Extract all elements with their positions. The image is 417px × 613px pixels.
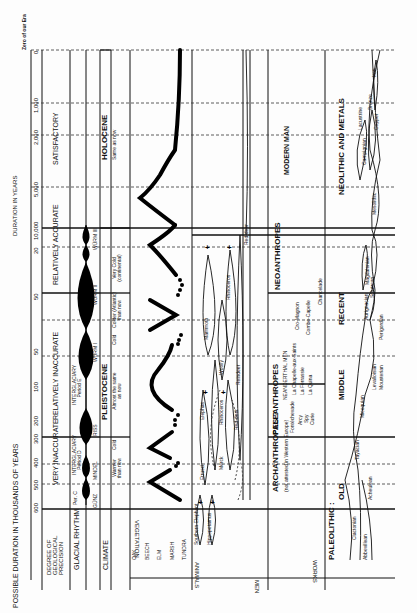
row-precision-label: DEGREE OF GEOLOGICAL PRECISION (46, 515, 64, 575)
climate-cold: Cold (112, 440, 117, 450)
tick-100: 100 (33, 382, 39, 392)
climate-almost-same: Almost the same as now (112, 372, 122, 410)
animal-woolly: Woolly (219, 360, 224, 375)
works-perigordian: Perigordian (379, 314, 384, 340)
animal-red-deer: Red-deer (234, 409, 239, 430)
glacial-riss: RISS (93, 424, 98, 436)
men-fontechevade: Fontéchevade (290, 401, 295, 433)
axis-title-thousands: POSSIBLE DURATION IN THOUSANDS OF YEARS (12, 443, 19, 608)
works-abbevillean: Abbevillean (363, 534, 368, 560)
svg-text:+: + (221, 388, 226, 397)
animal-red-deer-2: Red-deer (244, 224, 249, 245)
glacial-interglaciary-d: INTERGLACIARY Period D (72, 445, 82, 475)
men-combe-capelle: Combe-Capelle (306, 300, 311, 335)
glacial-gunz: GÜNZ (93, 494, 98, 508)
works-tayacian: Tayacian (355, 440, 360, 460)
animal-rhinoceros-merck: Rhinoceros (219, 400, 224, 425)
works-mesolithic: Mesolithic (372, 193, 377, 215)
svg-text:+: + (210, 498, 215, 507)
svg-text:+: + (203, 388, 208, 397)
animal-merck: Merck (219, 456, 224, 470)
tick-300: 300 (33, 434, 39, 444)
animal-reindeer: Reindeer (236, 365, 241, 385)
climate-warmer: Warmer than now (112, 456, 122, 480)
svg-text:+: + (205, 243, 210, 252)
men-curie: Curie (310, 413, 315, 425)
precision-satisfactory: SATISFACTORY (52, 112, 59, 165)
veg-elm: ELM (157, 550, 162, 560)
men-modern: MODERN MAN (283, 126, 290, 175)
glacial-per-c: Per. C (73, 491, 78, 505)
tick-500: 500 (33, 480, 39, 490)
row-works-label: WORKS (312, 560, 318, 583)
works-recent: RECENT (338, 292, 346, 325)
tick-10000: 10,000 (33, 222, 39, 240)
works-micoquian: Micoquian (360, 395, 365, 418)
tick-0: 0 (33, 51, 39, 54)
works-copper: Copper (374, 114, 379, 130)
glacial-wurm1: WÜRM I (93, 343, 98, 362)
climate-very-cold: Very Cold (continental) (112, 251, 122, 285)
animal-etrusci: Etrusci (200, 465, 205, 480)
tick-50a: 50 (33, 348, 39, 355)
works-solutrean: Solutrean (370, 277, 375, 298)
precision-relatively-accurate: RELATIVELY ACCURATE (52, 204, 59, 285)
men-quina: La Quina (308, 375, 313, 395)
works-paleolithic: PALEOLITHIC : (328, 502, 336, 560)
row-men-label: MEN (254, 580, 260, 593)
men-chancelade: Chancelade (318, 278, 323, 305)
works-old: OLD (338, 483, 346, 500)
veg-marsh: MARSH (170, 542, 175, 560)
men-cromagnon: Cro-Magnon (295, 302, 300, 330)
row-climate-label: CLIMATE (102, 540, 109, 570)
epoch-holocene: HOLOCENE (101, 115, 109, 160)
works-bronze: Bronze (368, 94, 373, 110)
works-iron: Iron (372, 68, 377, 77)
men-ferrassie: La Ferrassie (300, 367, 305, 395)
tick-200: 200 (33, 416, 39, 426)
men-chapelle: La Chapelle-aux-Saints (292, 343, 297, 395)
glacial-wurm2: WÜRM II (93, 285, 98, 305)
epoch-pleistocene: PLEISTOCENE (101, 364, 109, 420)
animal-hippopotamus: Hippopotamus (207, 513, 212, 545)
glacial-interglaciary-e: INTERGLACIARY Period E (72, 371, 82, 405)
men-paleanthropes: PALEANTHROPES (272, 364, 280, 435)
animal-elephas: Elephas (200, 402, 205, 420)
climate-same: Same as now (112, 130, 117, 160)
works-acheulean: Acheulean (368, 476, 373, 500)
men-neanderthal: NEANDERTHAL MEN (283, 351, 288, 400)
veg-beech: BEECH (145, 543, 150, 560)
climate-cold2: Cold (112, 335, 117, 345)
prehistory-chronology-chart: ++ ++ ++ POSSIBLE DURATION IN THOUSANDS … (0, 0, 417, 613)
precision-very-inaccurate: VERY INACCURATE (52, 419, 59, 485)
tick-5000: 5,000 (33, 182, 39, 197)
works-mousterian: Mousterian (379, 365, 384, 390)
row-animals-label: ANIMALS (194, 562, 200, 588)
tick-600: 600 (33, 503, 39, 513)
tick-400: 400 (33, 458, 39, 468)
works-neolithic-metals: NEOLITHIC AND METALS (338, 98, 346, 195)
zero-of-era-label: Zero of our Era (22, 14, 27, 50)
animal-southern-elephant: Southern Elephant (194, 504, 199, 545)
tick-1000: 1,000 (33, 98, 39, 113)
works-lacustrine: Lacustrine (358, 107, 363, 130)
precision-relatively-inaccurate: RELATIVELY INACCURATE (52, 332, 59, 420)
works-magdalenian: Magdalenian (365, 256, 370, 285)
row-glacial-label: GLACIAL RHYTHM (73, 509, 80, 570)
men-neoanthropes: NEOANTHROPES (274, 222, 282, 290)
works-middle: MIDDLE (338, 369, 346, 400)
works-levalloisian: Levalloisian (372, 364, 377, 390)
animal-rhinoceros: Rhinoceros (226, 275, 231, 300)
glacial-wurm3: WÜRM III (93, 228, 98, 250)
veg-oak: OAK (132, 549, 137, 560)
veg-tundra: TUNDRA (182, 539, 187, 560)
animal-mammoth: Mammoth (204, 318, 209, 340)
tick-20: 20 (33, 247, 39, 254)
glacial-mindel: MINDEL (93, 461, 98, 480)
tick-2000: 2,000 (33, 130, 39, 145)
tick-50b: 50 (33, 293, 39, 300)
works-campignian: Campignian (362, 138, 367, 165)
axis-title-years: DURATION IN YEARS (12, 176, 18, 236)
works-clactonian: Clactonian (352, 516, 357, 540)
svg-text:+: + (227, 243, 232, 252)
